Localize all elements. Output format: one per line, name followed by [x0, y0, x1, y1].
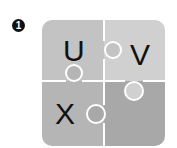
letter-x: X [55, 97, 75, 130]
letter-u: U [63, 34, 85, 67]
letter-v: V [130, 38, 150, 71]
puzzle-icon: U V X [0, 0, 177, 148]
